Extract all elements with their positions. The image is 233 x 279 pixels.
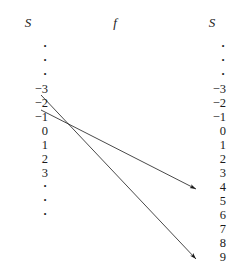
domain-value-4: −2	[8, 96, 48, 110]
domain-ellipsis-12	[8, 208, 48, 222]
domain-value-6: 0	[8, 124, 48, 138]
codomain-ellipsis-2	[186, 68, 226, 82]
domain-value-8: 2	[8, 152, 48, 166]
codomain-value-8: 2	[186, 152, 226, 166]
codomain-value-13: 7	[186, 222, 226, 236]
codomain-value-10: 4	[186, 180, 226, 194]
domain-column: −3−2−10123	[8, 40, 48, 222]
codomain-value-7: 1	[186, 138, 226, 152]
function-label-header: f	[103, 16, 127, 29]
arrow-minus2-to-4	[41, 110, 196, 189]
arrow-minus3-to-9	[41, 95, 196, 259]
codomain-value-3: −3	[186, 82, 226, 96]
left-column-header: S	[16, 16, 40, 29]
right-column-header: S	[200, 16, 224, 29]
codomain-value-9: 3	[186, 166, 226, 180]
codomain-value-12: 6	[186, 208, 226, 222]
codomain-value-15: 9	[186, 250, 226, 264]
codomain-value-11: 5	[186, 194, 226, 208]
function-mapping-figure: S f S −3−2−10123 −3−2−10123456789	[0, 0, 233, 279]
domain-ellipsis-2	[8, 68, 48, 82]
codomain-value-4: −2	[186, 96, 226, 110]
codomain-value-6: 0	[186, 124, 226, 138]
domain-value-7: 1	[8, 138, 48, 152]
domain-value-5: −1	[8, 110, 48, 124]
codomain-value-5: −1	[186, 110, 226, 124]
codomain-column: −3−2−10123456789	[186, 40, 226, 264]
codomain-value-14: 8	[186, 236, 226, 250]
domain-value-3: −3	[8, 82, 48, 96]
